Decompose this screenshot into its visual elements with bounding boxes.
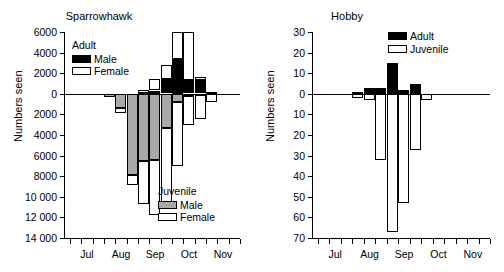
y-tick: [308, 114, 312, 115]
legend-swatch-white: [388, 45, 407, 53]
x-tick: [318, 239, 319, 244]
bar-adult-female-Sep-1: [138, 90, 149, 93]
x-axis-line: [312, 238, 490, 239]
x-tick: [104, 239, 105, 244]
x-tick: [206, 239, 207, 244]
chart-title: Sparrowhawk: [24, 10, 174, 22]
y-tick-label: 70: [252, 233, 305, 244]
bar-juvenile-Sep-2: [398, 94, 409, 203]
y-tick-label: 12 000: [4, 212, 57, 223]
x-tick: [81, 239, 82, 244]
y-tick: [308, 197, 312, 198]
bar-adult-Sep-1: [387, 63, 398, 94]
y-tick-label: 30: [252, 27, 305, 38]
x-tick: [375, 239, 376, 244]
x-tick: [217, 239, 218, 244]
x-tick: [127, 239, 128, 244]
bar-juvenile-Aug-3: [375, 94, 386, 160]
x-tick: [467, 239, 468, 244]
legend-label: Male: [180, 200, 203, 211]
legend-adult: AdultMaleFemale: [72, 40, 129, 79]
bar-juvenile-male-Aug-1: [104, 94, 115, 97]
y-tick: [308, 176, 312, 177]
y-tick: [308, 156, 312, 157]
bar-adult-male-Oct-2: [183, 80, 194, 93]
y-tick-label: 2000: [4, 68, 57, 79]
y-tick-label: 10: [252, 68, 305, 79]
bar-adult-male-Sep-3: [161, 79, 172, 93]
x-tick: [421, 239, 422, 244]
bar-juvenile-male-Oct-1: [172, 94, 183, 102]
y-tick-label: 0: [4, 89, 57, 100]
y-tick-label: 20: [252, 130, 305, 141]
x-tick: [398, 239, 399, 244]
x-tick-label: Nov: [448, 249, 498, 260]
x-tick: [479, 239, 480, 244]
bar-juvenile-female-Oct-2: [183, 96, 194, 125]
bar-adult-male-Oct-1: [172, 59, 183, 94]
bar-juvenile-female-Aug-2: [115, 108, 126, 113]
x-tick: [161, 239, 162, 244]
legend-swatch-white: [158, 213, 177, 221]
legend-label: Male: [94, 54, 117, 65]
x-tick: [115, 239, 116, 244]
bar-juvenile-male-Sep-1: [138, 94, 149, 161]
bar-juvenile-Sep-1: [387, 94, 398, 232]
y-tick-label: 60: [252, 212, 305, 223]
y-tick-label: 40: [252, 171, 305, 182]
bar-juvenile-male-Sep-2: [149, 94, 160, 160]
bar-adult-female-Oct-1: [172, 32, 183, 59]
y-axis-line: [64, 32, 65, 239]
legend-entry: Juvenile: [388, 44, 449, 55]
y-tick-label: 4000: [4, 48, 57, 59]
y-tick-label: 6000: [4, 27, 57, 38]
x-tick: [240, 239, 241, 244]
y-tick: [60, 32, 64, 33]
bar-juvenile-female-Oct-1: [172, 102, 183, 166]
bar-juvenile-female-Sep-1: [138, 161, 149, 204]
legend-title: Juvenile: [158, 186, 215, 197]
bar-adult-Sep-3: [410, 84, 421, 94]
x-tick: [444, 239, 445, 244]
y-tick: [60, 156, 64, 157]
legend-entry: Male: [72, 54, 129, 65]
y-tick-label: 8000: [4, 171, 57, 182]
chart-title: Hobby: [272, 10, 422, 22]
y-tick: [308, 73, 312, 74]
y-tick: [308, 217, 312, 218]
legend-label: Female: [180, 212, 215, 223]
bar-juvenile-Sep-3: [410, 94, 421, 150]
x-tick: [229, 239, 230, 244]
bar-juvenile-Aug-2: [364, 94, 375, 100]
bar-juvenile-female-Aug-3: [127, 175, 138, 185]
chart-panel-sparrowhawk: SparrowhawkNumbers seen60004000200002000…: [0, 0, 252, 272]
legend-swatch-black: [72, 55, 91, 63]
legend-swatch-black: [388, 32, 407, 40]
x-tick: [183, 239, 184, 244]
x-tick: [341, 239, 342, 244]
legend-entry: Female: [72, 66, 129, 77]
bar-juvenile-Aug-1: [352, 94, 363, 98]
legend-swatch-white: [72, 67, 91, 75]
bar-juvenile-male-Aug-2: [115, 94, 126, 108]
x-tick: [490, 239, 491, 244]
legend-label: Adult: [410, 31, 434, 42]
legend-group: AdultJuvenile: [388, 31, 449, 56]
bar-adult-female-Oct-2: [183, 32, 194, 80]
y-tick: [60, 176, 64, 177]
x-tick: [172, 239, 173, 244]
x-tick: [387, 239, 388, 244]
x-axis-line: [64, 238, 240, 239]
x-tick: [433, 239, 434, 244]
x-tick: [329, 239, 330, 244]
legend-label: Female: [94, 66, 129, 77]
y-tick: [60, 135, 64, 136]
figure-root: SparrowhawkNumbers seen60004000200002000…: [0, 0, 504, 272]
bar-juvenile-male-Aug-3: [127, 94, 138, 175]
legend-label: Juvenile: [410, 44, 449, 55]
bar-juvenile-male-Sep-3: [161, 94, 172, 128]
y-tick-label: 0: [252, 89, 305, 100]
y-tick: [60, 53, 64, 54]
y-tick-label: 20: [252, 48, 305, 59]
y-tick-label: 10: [252, 109, 305, 120]
